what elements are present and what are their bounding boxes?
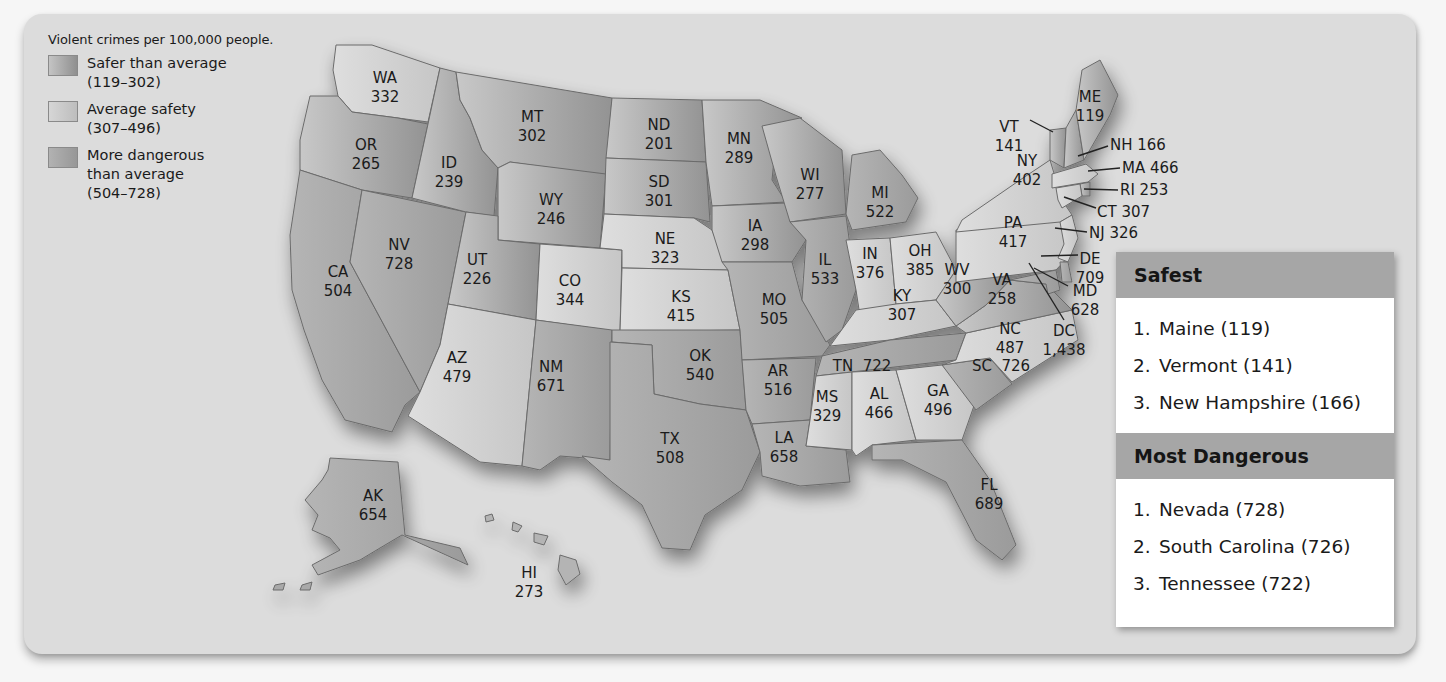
label-HI: HI273 <box>515 564 544 601</box>
label-ME: ME119 <box>1076 88 1105 125</box>
label-GA: GA496 <box>924 382 953 419</box>
label-NJ: NJ 326 <box>1089 224 1138 242</box>
label-CA: CA504 <box>324 263 353 300</box>
label-WV: WV300 <box>943 261 972 298</box>
label-AK: AK654 <box>359 487 388 524</box>
most-dangerous-list: 1.Nevada (728) 2.South Carolina (726) 3.… <box>1116 479 1394 614</box>
safest-list: 1.Maine (119) 2.Vermont (141) 3.New Hamp… <box>1116 298 1394 433</box>
label-RI: RI 253 <box>1120 181 1168 199</box>
state-CT[interactable] <box>1056 184 1082 208</box>
most-dangerous-header: Most Dangerous <box>1116 433 1394 479</box>
label-CO: CO344 <box>556 272 585 309</box>
label-NE: NE323 <box>651 230 680 267</box>
label-NY: NY402 <box>1013 152 1042 189</box>
hawaii-island-2 <box>512 522 522 532</box>
label-SC: SC 726 <box>972 357 1030 375</box>
most-dangerous-item: 1.Nevada (728) <box>1133 491 1394 528</box>
alaska-island-1 <box>300 582 312 590</box>
most-dangerous-item: 2.South Carolina (726) <box>1133 528 1394 565</box>
safest-item: 1.Maine (119) <box>1133 310 1394 347</box>
label-WA: WA332 <box>371 69 400 106</box>
label-OK: OK540 <box>686 347 715 384</box>
label-MN: MN289 <box>725 130 754 167</box>
label-SD: SD301 <box>645 173 674 210</box>
label-AR: AR516 <box>764 362 793 399</box>
safest-header: Safest <box>1116 252 1394 298</box>
label-MA: MA 466 <box>1122 159 1179 177</box>
label-WY: WY246 <box>537 191 566 228</box>
leader-RI <box>1084 189 1118 190</box>
label-NH: NH 166 <box>1110 136 1166 154</box>
label-MT: MT302 <box>518 108 547 145</box>
label-TN: TN 722 <box>832 357 892 375</box>
state-DE[interactable] <box>1060 262 1072 282</box>
leader-VT <box>1030 120 1053 132</box>
state-NM[interactable] <box>522 320 612 470</box>
label-AZ: AZ479 <box>443 349 472 386</box>
state-HI[interactable] <box>558 555 580 585</box>
state-VT[interactable] <box>1050 128 1066 168</box>
label-NC: NC487 <box>996 320 1025 357</box>
alaska-island-2 <box>273 583 285 590</box>
label-MS: MS329 <box>813 388 842 425</box>
label-OH: OH385 <box>906 242 935 279</box>
most-dangerous-item: 3.Tennessee (722) <box>1133 565 1394 602</box>
label-NV: NV728 <box>385 236 414 273</box>
leader-DE <box>1041 255 1078 256</box>
label-VA: VA258 <box>988 271 1017 308</box>
label-MO: MO505 <box>760 291 789 328</box>
label-CT: CT 307 <box>1097 203 1150 221</box>
label-MD: MD628 <box>1071 282 1100 319</box>
safest-item: 3.New Hampshire (166) <box>1133 384 1394 421</box>
label-OR: OR265 <box>352 136 381 173</box>
label-VT: VT141 <box>995 118 1024 155</box>
safest-item: 2.Vermont (141) <box>1133 347 1394 384</box>
label-UT: UT226 <box>463 251 492 288</box>
label-ND: ND201 <box>645 116 674 153</box>
label-NM: NM671 <box>537 358 566 395</box>
rankings-box: Safest 1.Maine (119) 2.Vermont (141) 3.N… <box>1116 252 1394 627</box>
hawaii-island-3 <box>534 533 548 545</box>
hawaii-island-1 <box>485 514 494 522</box>
